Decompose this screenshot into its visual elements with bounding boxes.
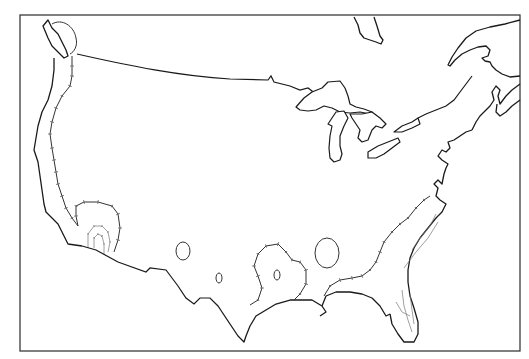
mexico-border [82, 246, 222, 312]
map-frame [20, 15, 520, 351]
contour-southwest-outer [76, 202, 120, 252]
contour-lake-lobe [274, 270, 280, 280]
contour-small-oval-texas [216, 273, 222, 283]
florida-peninsula [390, 238, 420, 342]
canada-border [77, 54, 322, 94]
lake-huron [350, 112, 386, 142]
map-canvas [0, 0, 529, 359]
contour-oval-louisiana [315, 238, 339, 268]
atlantic-coast [420, 130, 472, 238]
contour-gulf-atlantic-coast [324, 196, 430, 296]
st-lawrence-river [418, 76, 472, 118]
lake-ontario [394, 118, 420, 132]
contour-florida-inner [396, 290, 414, 332]
james-bay-shoreline [354, 17, 383, 44]
pacific-coast [34, 58, 82, 246]
st-lawrence-north-shore [448, 20, 520, 77]
contour-oval-west-texas [176, 242, 190, 260]
vancouver-island [43, 20, 68, 58]
contour-lobe-east-texas [250, 244, 306, 305]
contour-pacific-coast [50, 56, 78, 226]
gulf-coast-east [322, 292, 390, 316]
lake-michigan [328, 111, 348, 162]
lake-erie [368, 138, 400, 158]
lake-superior [296, 81, 372, 114]
texas-gulf-coast [222, 300, 326, 342]
